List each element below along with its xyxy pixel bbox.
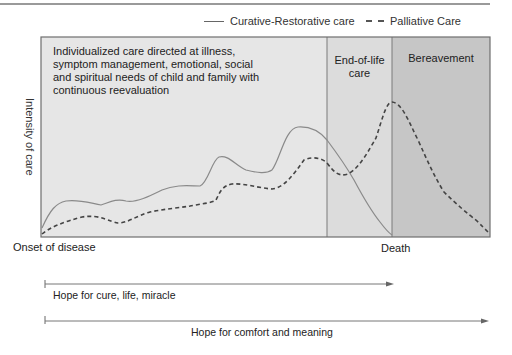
region-bereavement — [392, 37, 490, 237]
arrow-right-icon — [481, 319, 489, 324]
end-of-life-label: End-of-life care — [327, 54, 392, 80]
x-axis-onset-label: Onset of disease — [13, 241, 96, 253]
bereavement-label: Bereavement — [392, 52, 490, 65]
hope-cure-label: Hope for cure, life, miracle — [53, 289, 176, 301]
x-axis-death-label: Death — [381, 242, 410, 254]
y-axis-label: Intensity of care — [24, 98, 36, 176]
arrow-right-icon — [386, 282, 394, 287]
hope-comfort-label: Hope for comfort and meaning — [191, 326, 333, 338]
main-text-line: and spiritual needs of child and family … — [53, 71, 323, 84]
end-of-life-line: End-of-life — [327, 54, 392, 67]
region-main-text: Individualized care directed at illness,… — [53, 45, 323, 97]
main-text-line: continuous reevaluation — [53, 84, 323, 97]
main-text-line: Individualized care directed at illness, — [53, 45, 323, 58]
main-text-line: symptom management, emotional, social — [53, 58, 323, 71]
end-of-life-line: care — [327, 67, 392, 80]
